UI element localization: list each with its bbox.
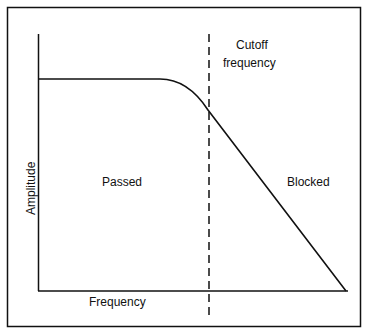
filter-diagram xyxy=(0,0,366,331)
x-axis-label: Frequency xyxy=(89,295,146,309)
y-axis-label: Amplitude xyxy=(24,162,38,215)
passband-label: Passed xyxy=(102,175,142,189)
cutoff-label-line2: frequency xyxy=(223,56,276,70)
cutoff-label-line1: Cutoff xyxy=(236,38,268,52)
frame-border xyxy=(8,8,361,327)
stopband-label: Blocked xyxy=(287,175,330,189)
